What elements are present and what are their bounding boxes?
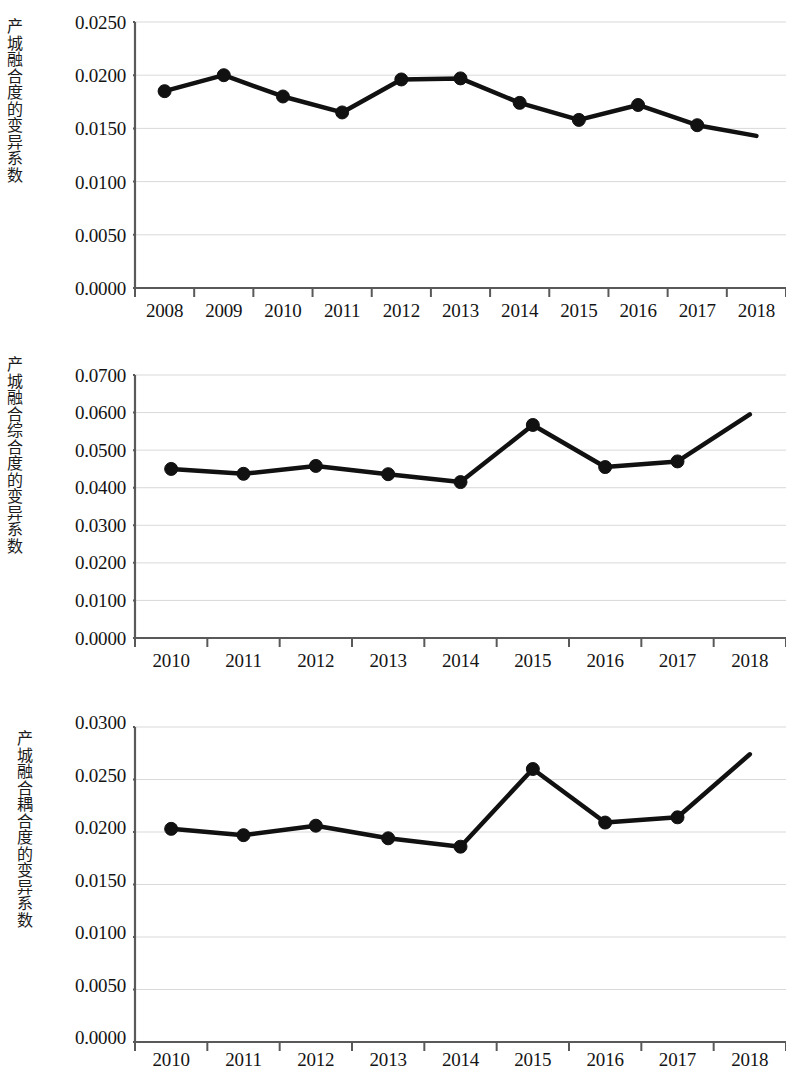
x-tick-label: 2017 (668, 300, 727, 322)
y-tick-label: 0.0400 (0, 478, 126, 497)
y-tick-label: 0.0050 (0, 226, 126, 245)
x-axis-ticks (135, 638, 786, 647)
y-tick-label: 0.0100 (0, 923, 126, 942)
x-tick-label: 2018 (714, 650, 786, 672)
plot-area-chart-2 (133, 365, 786, 650)
plot-area-chart-1 (133, 12, 786, 302)
y-tick-label: 0.0200 (0, 553, 126, 572)
y-tick-label: 0.0700 (0, 366, 126, 385)
data-series-line (171, 414, 750, 482)
x-tick-label: 2012 (280, 1049, 352, 1070)
y-tick-label: 0.0300 (0, 516, 126, 535)
data-point-marker (454, 840, 467, 853)
x-tick-label: 2014 (424, 1049, 496, 1070)
x-tick-label: 2009 (194, 300, 253, 322)
data-series-line (171, 754, 750, 846)
x-tick-label: 2011 (313, 300, 372, 322)
gridlines (135, 22, 786, 288)
x-tick-label: 2015 (497, 1049, 569, 1070)
data-point-marker (165, 462, 178, 475)
data-point-marker (395, 73, 408, 86)
data-markers (165, 763, 684, 854)
x-tick-label: 2010 (135, 650, 207, 672)
x-tick-label: 2011 (207, 1049, 279, 1070)
y-tick-label: 0.0000 (0, 629, 126, 648)
chart-panel-2: 产城融合综合度的变异系数 0.0700 0.0600 0.0500 0.0400… (0, 350, 786, 690)
data-point-marker (309, 459, 322, 472)
y-tick-label: 0.0200 (0, 66, 126, 85)
data-point-marker (158, 85, 171, 98)
chart-panel-3: 产城融合耦合度的变异系数 0.0300 0.0250 0.0200 0.0150… (0, 705, 786, 1070)
x-tick-label: 2013 (431, 300, 490, 322)
data-point-marker (336, 106, 349, 119)
data-point-marker (454, 72, 467, 85)
data-point-marker (526, 418, 539, 431)
x-tick-label: 2014 (490, 300, 549, 322)
y-tick-labels-chart-1: 0.0250 0.0200 0.0150 0.0100 0.0050 0.000… (0, 0, 126, 300)
data-point-marker (632, 98, 645, 111)
y-tick-label: 0.0600 (0, 403, 126, 422)
x-tick-labels-chart-1: 2008 2009 2010 2011 2012 2013 2014 2015 … (135, 300, 786, 322)
y-tick-label: 0.0250 (0, 13, 126, 32)
x-tick-labels-chart-3: 2010 2011 2012 2013 2014 2015 2016 2017 … (135, 1049, 786, 1070)
data-point-marker (165, 822, 178, 835)
gridlines (135, 727, 786, 1042)
y-tick-labels-chart-3: 0.0300 0.0250 0.0200 0.0150 0.0100 0.005… (0, 705, 126, 1050)
x-tick-label: 2012 (372, 300, 431, 322)
y-tick-label: 0.0000 (0, 1028, 126, 1047)
y-tick-labels-chart-2: 0.0700 0.0600 0.0500 0.0400 0.0300 0.020… (0, 350, 126, 650)
x-tick-label: 2015 (549, 300, 608, 322)
y-tick-label: 0.0200 (0, 818, 126, 837)
x-tick-label: 2010 (135, 1049, 207, 1070)
x-tick-label: 2016 (569, 1049, 641, 1070)
data-point-marker (691, 119, 704, 132)
x-tick-labels-chart-2: 2010 2011 2012 2013 2014 2015 2016 2017 … (135, 650, 786, 672)
plot-area-chart-3 (133, 712, 786, 1052)
x-tick-label: 2013 (352, 1049, 424, 1070)
y-tick-label: 0.0300 (0, 713, 126, 732)
x-tick-label: 2016 (609, 300, 668, 322)
gridlines (135, 375, 786, 638)
line-chart-svg-2 (133, 365, 786, 650)
y-tick-label: 0.0000 (0, 279, 126, 298)
y-tick-label: 0.0150 (0, 871, 126, 890)
data-point-marker (217, 69, 230, 82)
x-tick-label: 2010 (253, 300, 312, 322)
data-point-marker (309, 819, 322, 832)
x-tick-label: 2015 (497, 650, 569, 672)
y-tick-label: 0.0500 (0, 441, 126, 460)
data-point-marker (237, 467, 250, 480)
data-point-marker (276, 90, 289, 103)
data-point-marker (599, 461, 612, 474)
x-tick-label: 2016 (569, 650, 641, 672)
data-point-marker (671, 455, 684, 468)
y-tick-label: 0.0100 (0, 591, 126, 610)
y-tick-label: 0.0050 (0, 976, 126, 995)
data-point-marker (572, 113, 585, 126)
figure-page: 产城融合度的变异系数 0.0250 0.0200 0.0150 0.0100 0… (0, 0, 786, 1070)
x-tick-label: 2017 (641, 1049, 713, 1070)
x-tick-label: 2018 (727, 300, 786, 322)
x-tick-label: 2018 (714, 1049, 786, 1070)
y-tick-label: 0.0250 (0, 766, 126, 785)
y-tick-label: 0.0150 (0, 119, 126, 138)
data-point-marker (599, 816, 612, 829)
data-point-marker (671, 811, 684, 824)
line-chart-svg-1 (133, 12, 786, 302)
y-tick-label: 0.0100 (0, 173, 126, 192)
x-tick-label: 2013 (352, 650, 424, 672)
x-tick-label: 2011 (207, 650, 279, 672)
data-point-marker (382, 468, 395, 481)
data-point-marker (237, 829, 250, 842)
chart-panel-1: 产城融合度的变异系数 0.0250 0.0200 0.0150 0.0100 0… (0, 0, 786, 340)
x-tick-label: 2014 (424, 650, 496, 672)
data-point-marker (513, 96, 526, 109)
x-tick-label: 2012 (280, 650, 352, 672)
line-chart-svg-3 (133, 712, 786, 1052)
x-tick-label: 2008 (135, 300, 194, 322)
data-point-marker (382, 832, 395, 845)
x-tick-label: 2017 (641, 650, 713, 672)
data-point-marker (526, 763, 539, 776)
data-point-marker (454, 476, 467, 489)
x-axis-ticks (135, 288, 786, 297)
